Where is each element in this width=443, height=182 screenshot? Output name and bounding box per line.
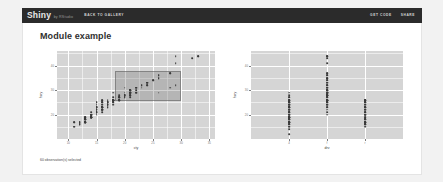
data-point xyxy=(175,62,177,64)
data-point xyxy=(364,123,366,125)
data-point xyxy=(326,92,328,94)
data-point xyxy=(288,121,290,123)
data-point xyxy=(326,87,328,89)
data-point xyxy=(152,79,154,81)
data-point xyxy=(130,92,132,94)
y-tick-label: 30 xyxy=(46,89,54,92)
data-point xyxy=(96,104,98,106)
data-point xyxy=(288,92,290,94)
data-point xyxy=(101,101,103,103)
x-tick-label: 15 xyxy=(95,142,98,145)
x-tick-label: 35 xyxy=(208,142,211,145)
x-tick-label: 30 xyxy=(180,142,183,145)
data-point xyxy=(130,89,132,91)
x-tick-label: 20 xyxy=(123,142,126,145)
data-point xyxy=(107,104,109,106)
plot-panel-left[interactable] xyxy=(57,51,215,139)
gridline-major xyxy=(209,51,210,139)
data-point xyxy=(175,55,177,57)
content-card: Module example 101520253035203040 cty hw… xyxy=(22,23,422,175)
y-tick-label: 20 xyxy=(46,113,54,116)
data-point xyxy=(135,92,137,94)
data-point xyxy=(101,106,103,108)
header-actions: GET CODE SHARE xyxy=(370,14,415,17)
get-code-button[interactable]: GET CODE xyxy=(370,14,392,17)
data-point xyxy=(326,55,328,57)
data-point xyxy=(169,72,171,74)
data-point xyxy=(96,101,98,103)
plot-panel-right[interactable] xyxy=(251,51,403,139)
gridline-major xyxy=(57,66,215,67)
data-point xyxy=(364,111,366,113)
data-point xyxy=(288,94,290,96)
data-point xyxy=(124,92,126,94)
y-tick-mark xyxy=(249,115,251,116)
brand-name: Shiny xyxy=(27,11,51,20)
y-tick-mark xyxy=(55,90,57,91)
shiny-brand-logo[interactable]: Shiny by RStudio xyxy=(27,11,73,20)
data-point xyxy=(130,94,132,96)
data-point xyxy=(84,116,86,118)
brand-byline: by RStudio xyxy=(54,16,74,20)
data-point xyxy=(96,114,98,116)
data-point xyxy=(197,55,199,57)
data-point xyxy=(158,77,160,79)
data-point xyxy=(146,82,148,84)
data-point xyxy=(124,97,126,99)
data-point xyxy=(288,114,290,116)
page-title: Module example xyxy=(40,31,111,41)
data-point xyxy=(288,97,290,99)
data-point xyxy=(288,106,290,108)
x-tick-label: 10 xyxy=(67,142,70,145)
data-point xyxy=(288,123,290,125)
data-point xyxy=(79,121,81,123)
x-axis-title-left: cty xyxy=(134,147,139,151)
data-point xyxy=(288,109,290,111)
data-point xyxy=(364,106,366,108)
data-point xyxy=(158,92,160,94)
y-axis-title-left: hwy xyxy=(40,92,44,98)
data-point xyxy=(364,99,366,101)
data-point xyxy=(146,84,148,86)
y-tick-label: 20 xyxy=(240,113,248,116)
data-point xyxy=(364,101,366,103)
y-tick-mark xyxy=(249,66,251,67)
data-point xyxy=(288,126,290,128)
data-point xyxy=(364,121,366,123)
data-point xyxy=(288,128,290,130)
data-point xyxy=(113,92,115,94)
data-point xyxy=(364,109,366,111)
data-point xyxy=(84,121,86,123)
data-point xyxy=(135,87,137,89)
share-button[interactable]: SHARE xyxy=(401,14,415,17)
data-point xyxy=(288,133,290,135)
gridline-major xyxy=(97,51,98,139)
back-to-gallery-link[interactable]: BACK TO GALLERY xyxy=(84,14,124,17)
data-point xyxy=(364,114,366,116)
data-point xyxy=(326,97,328,99)
data-point xyxy=(113,97,115,99)
data-point xyxy=(113,101,115,103)
data-point xyxy=(124,94,126,96)
y-tick-label: 30 xyxy=(240,89,248,92)
x-tick-label: r xyxy=(365,142,366,145)
plot-cty-hwy[interactable]: 101520253035203040 cty hwy xyxy=(35,48,227,152)
data-point xyxy=(288,119,290,121)
data-point xyxy=(141,84,143,86)
plot-drv-hwy[interactable]: 4fr203040 drv hwy xyxy=(227,48,413,152)
data-point xyxy=(364,104,366,106)
data-point xyxy=(326,104,328,106)
data-point xyxy=(326,62,328,64)
data-point xyxy=(175,84,177,86)
data-point xyxy=(90,111,92,113)
data-point xyxy=(288,111,290,113)
data-point xyxy=(326,94,328,96)
data-point xyxy=(135,89,137,91)
y-tick-label: 40 xyxy=(240,64,248,67)
data-point xyxy=(118,97,120,99)
data-point xyxy=(326,72,328,74)
data-point xyxy=(96,111,98,113)
site-header: Shiny by RStudio BACK TO GALLERY GET COD… xyxy=(22,8,422,23)
data-point xyxy=(288,101,290,103)
data-point xyxy=(288,99,290,101)
